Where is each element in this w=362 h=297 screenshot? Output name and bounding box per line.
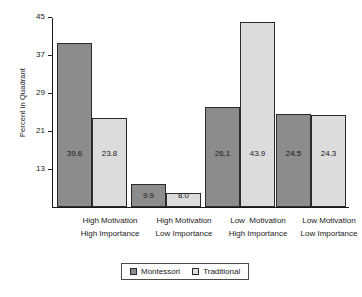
bar-value-label: 24.3 (321, 149, 337, 158)
bar-value-label: 24.5 (286, 149, 302, 158)
y-axis-tick: 21 (48, 131, 52, 132)
legend-swatch-icon (192, 268, 199, 275)
x-axis-line (52, 207, 349, 208)
y-axis-tick: 13 (48, 169, 52, 170)
bar-value-label: 23.8 (102, 149, 118, 158)
bar-montessori-0: 39.6 (57, 43, 92, 207)
legend-label: Montessori (141, 267, 180, 276)
bar-traditional-3: 24.3 (311, 115, 346, 207)
legend-label: Traditional (203, 267, 240, 276)
bar-traditional-0: 23.8 (92, 118, 127, 207)
plot-area: 1321293745 39.69.926.124.523.88.043.924.… (52, 18, 349, 208)
y-axis-tick: 45 (48, 17, 52, 18)
y-axis-line (52, 18, 53, 208)
bar-montessori-1: 9.9 (131, 184, 166, 207)
legend-item-traditional: Traditional (192, 267, 240, 276)
bar-value-label: 8.0 (178, 191, 189, 200)
legend-swatch-icon (130, 268, 137, 275)
category-label-line2: Low Importance (275, 227, 362, 240)
bar-value-label: 9.9 (143, 191, 154, 200)
y-axis-tick-label: 29 (36, 88, 45, 97)
bar-traditional-2: 43.9 (240, 22, 275, 207)
bar-value-label: 43.9 (250, 149, 266, 158)
bar-montessori-3: 24.5 (276, 114, 311, 207)
category-label-3: Low MotivationLow Importance (275, 214, 362, 240)
y-axis-tick: 37 (48, 55, 52, 56)
y-axis-tick: 29 (48, 93, 52, 94)
bar-value-label: 26.1 (215, 149, 231, 158)
y-axis-tick-label: 45 (36, 12, 45, 21)
y-axis-tick-label: 37 (36, 50, 45, 59)
category-label-line1: Low Motivation (275, 214, 362, 227)
bar-montessori-2: 26.1 (205, 107, 240, 207)
y-axis-tick-label: 21 (36, 126, 45, 135)
bar-traditional-1: 8.0 (166, 193, 201, 207)
chart-legend: MontessoriTraditional (121, 263, 249, 280)
y-axis-tick-label: 13 (36, 164, 45, 173)
bar-value-label: 39.6 (67, 149, 83, 158)
legend-item-montessori: Montessori (130, 267, 180, 276)
y-axis-title: Percent in Quadrant (18, 43, 27, 163)
